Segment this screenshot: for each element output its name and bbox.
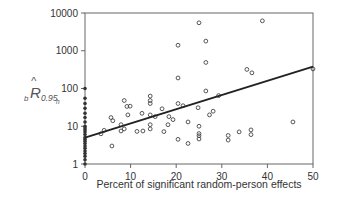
y-tick-label: 1000 (56, 45, 79, 56)
y-tick-label: 1 (72, 159, 78, 170)
data-point (83, 116, 87, 120)
data-point (83, 97, 87, 101)
data-point (83, 87, 87, 91)
data-point (83, 102, 87, 106)
data-point (83, 158, 87, 162)
plot-frame (85, 13, 313, 164)
y-axis-ticks: 110100100010000 (50, 8, 85, 170)
data-point (83, 162, 87, 166)
hat-accent: ^ (31, 75, 37, 87)
data-point (83, 154, 87, 158)
scatter-chart: 110100100010000 01020304050 Percent of s… (0, 0, 338, 210)
data-point (83, 106, 87, 110)
y-axis-title: b R ^ 0.95 h (24, 75, 60, 105)
x-axis-title: Percent of significant random-person eff… (96, 178, 301, 190)
data-point (83, 120, 87, 124)
x-tick-label: 0 (82, 171, 88, 182)
zero-percent-points (83, 87, 87, 166)
y-tick-label: 100 (61, 83, 78, 94)
data-point (83, 112, 87, 116)
y-tick-label: 10 (67, 121, 79, 132)
y-axis-title-subsub: h (56, 98, 60, 105)
x-tick-label: 50 (307, 171, 319, 182)
y-axis-title-prefix: b (24, 94, 29, 103)
y-tick-label: 10000 (50, 8, 78, 19)
